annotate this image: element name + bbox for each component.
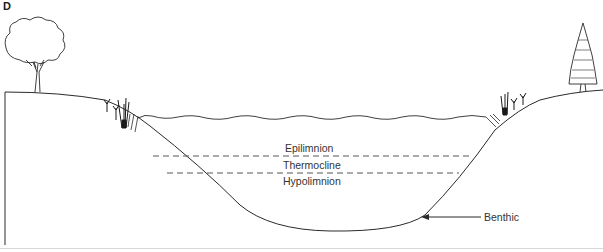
shore-hatch-right — [486, 114, 500, 127]
reed-plant-icon — [104, 98, 129, 128]
bottom-divider — [0, 248, 603, 249]
conifer-tree-icon — [569, 23, 597, 92]
water-surface — [138, 115, 486, 119]
epilimnion-label: Epilimnion — [285, 142, 333, 154]
hypolimnion-label: Hypolimnion — [283, 175, 341, 187]
reed-plant-icon — [501, 92, 526, 115]
deciduous-tree-icon — [5, 17, 65, 92]
thermocline-label: Thermocline — [283, 159, 341, 171]
arrow-left-icon — [421, 214, 481, 220]
benthic-label: Benthic — [484, 211, 519, 223]
